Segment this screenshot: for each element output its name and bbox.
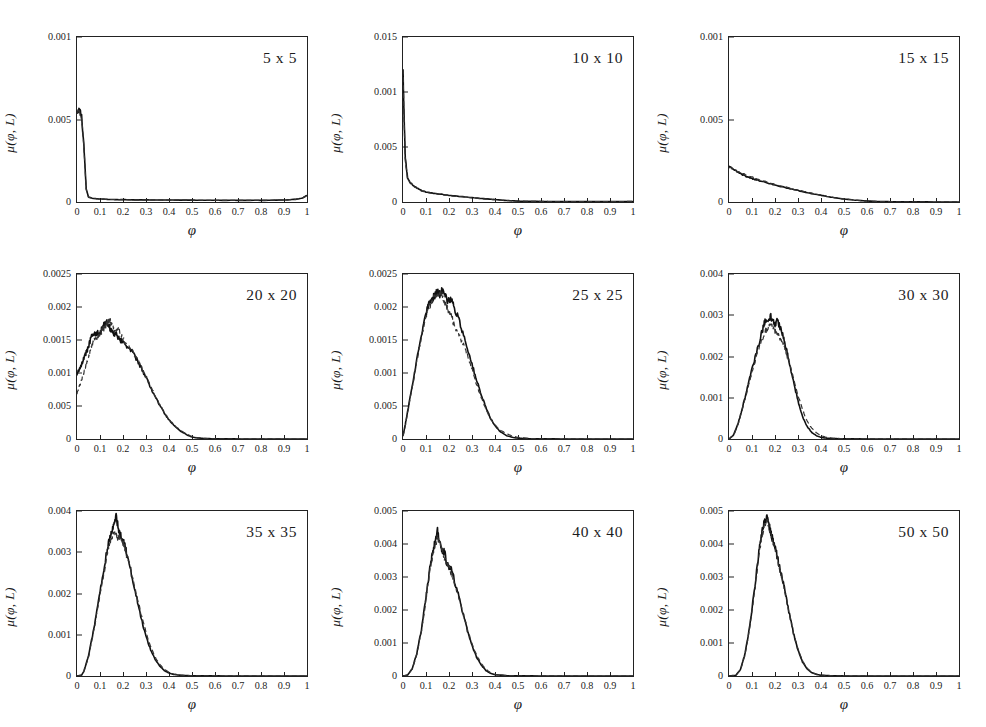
curve-solid (729, 314, 959, 439)
x-tick-label: 0.5 (512, 202, 525, 217)
x-tick-label: 0 (400, 439, 405, 454)
x-tick-label: 0.7 (232, 202, 245, 217)
x-tick-label: 1 (630, 676, 635, 691)
x-tick-label: 0 (726, 202, 731, 217)
curve-dashed (729, 324, 959, 439)
x-tick-label: 0.4 (489, 439, 502, 454)
panel-title: 30 x 30 (898, 286, 949, 304)
x-tick-label: 0.6 (535, 439, 548, 454)
x-tick-label: 0.3 (140, 676, 153, 691)
x-tick-label: 0.7 (558, 202, 571, 217)
x-tick-label: 0.3 (792, 202, 805, 217)
y-tick-label: 0.004 (48, 506, 77, 516)
y-tick-label: 0.001 (700, 638, 729, 648)
y-tick-label: 0.005 (48, 401, 77, 411)
y-tick-label: 0.002 (374, 302, 403, 312)
x-tick-label: 0.8 (255, 676, 268, 691)
x-tick-label: 0 (74, 676, 79, 691)
x-tick-label: 0.9 (278, 439, 291, 454)
x-tick-label: 0.1 (746, 202, 759, 217)
plot-frame: 00.0050.0010.00150.0020.002500.10.20.30.… (402, 273, 634, 440)
x-tick-label: 0.5 (186, 202, 199, 217)
y-axis-label: μ(φ, L) (0, 488, 20, 725)
curve-solid (403, 69, 633, 201)
x-axis-label: φ (77, 222, 307, 239)
x-tick-label: 0.2 (769, 439, 782, 454)
x-tick-label: 0.1 (746, 439, 759, 454)
x-tick-label: 0.2 (769, 202, 782, 217)
y-tick-label: 0.003 (48, 547, 77, 557)
x-tick-label: 0.8 (581, 439, 594, 454)
y-tick-label: 0.003 (700, 572, 729, 582)
y-axis-label: μ(φ, L) (326, 14, 346, 251)
curve-dashed (403, 291, 633, 439)
y-tick-label: 0.002 (700, 351, 729, 361)
plot-frame: 00.0010.0020.0030.0040.00500.10.20.30.40… (402, 510, 634, 677)
panel-30x30: μ(φ, L)00.0010.0020.0030.00400.10.20.30.… (656, 251, 982, 488)
y-tick-label: 0.0015 (43, 335, 77, 345)
y-tick-label: 0.002 (374, 605, 403, 615)
x-tick-label: 0.8 (255, 202, 268, 217)
y-axis-label: μ(φ, L) (326, 488, 346, 725)
x-tick-label: 0 (400, 676, 405, 691)
x-axis-label: φ (403, 222, 633, 239)
y-tick-label: 0.005 (48, 114, 77, 124)
panel-title: 15 x 15 (898, 49, 949, 67)
y-tick-label: 0.015 (374, 32, 403, 42)
y-axis-label: μ(φ, L) (0, 14, 20, 251)
panel-50x50: μ(φ, L)00.0010.0020.0030.0040.00500.10.2… (656, 488, 982, 725)
x-tick-label: 0.6 (209, 439, 222, 454)
y-axis-label-text: μ(φ, L) (2, 587, 18, 627)
y-axis-label-text: μ(φ, L) (328, 350, 344, 390)
y-tick-label: 0.004 (700, 269, 729, 279)
x-tick-label: 0.1 (420, 676, 433, 691)
y-tick-label: 0.005 (374, 506, 403, 516)
y-tick-label: 0.004 (374, 539, 403, 549)
x-tick-label: 0.5 (186, 676, 199, 691)
y-axis-label: μ(φ, L) (652, 488, 672, 725)
x-tick-label: 0.8 (255, 439, 268, 454)
x-tick-label: 0.2 (443, 202, 456, 217)
x-tick-label: 0 (74, 439, 79, 454)
curve-dashed (729, 519, 959, 676)
panel-5x5: μ(φ, L)00.0050.00100.10.20.30.40.50.60.7… (4, 14, 330, 251)
y-tick-label: 0.002 (48, 588, 77, 598)
y-tick-label: 0.0015 (369, 335, 403, 345)
plot-frame: 00.0050.00100.10.20.30.40.50.60.70.80.91… (728, 36, 960, 203)
y-tick-label: 0.005 (374, 401, 403, 411)
x-tick-label: 0.6 (861, 439, 874, 454)
panel-20x20: μ(φ, L)00.0050.0010.00150.0020.002500.10… (4, 251, 330, 488)
x-tick-label: 0.1 (94, 202, 107, 217)
x-tick-label: 1 (304, 202, 309, 217)
y-axis-label: μ(φ, L) (652, 14, 672, 251)
panel-title: 35 x 35 (246, 523, 297, 541)
x-tick-label: 0.1 (746, 676, 759, 691)
y-axis-label-text: μ(φ, L) (654, 350, 670, 390)
plot-frame: 00.0050.00100.10.20.30.40.50.60.70.80.91… (76, 36, 308, 203)
x-tick-label: 0.8 (907, 202, 920, 217)
y-tick-label: 0.001 (48, 368, 77, 378)
x-tick-label: 0.4 (489, 676, 502, 691)
y-tick-label: 0.001 (374, 87, 403, 97)
y-tick-label: 0.0025 (43, 269, 77, 279)
x-tick-label: 0.8 (907, 439, 920, 454)
x-tick-label: 1 (304, 439, 309, 454)
x-tick-label: 0.3 (140, 439, 153, 454)
x-tick-label: 0.6 (861, 676, 874, 691)
figure-root: μ(φ, L)00.0050.00100.10.20.30.40.50.60.7… (0, 0, 986, 727)
plot-frame: 00.0010.0020.0030.00400.10.20.30.40.50.6… (728, 273, 960, 440)
plot-frame: 00.0050.0010.01500.10.20.30.40.50.60.70.… (402, 36, 634, 203)
y-tick-label: 0.005 (374, 142, 403, 152)
x-tick-label: 0.9 (604, 676, 617, 691)
x-tick-label: 0.9 (278, 676, 291, 691)
x-tick-label: 0.7 (884, 676, 897, 691)
y-tick-label: 0.002 (700, 605, 729, 615)
x-tick-label: 0.2 (117, 439, 130, 454)
y-axis-label: μ(φ, L) (652, 251, 672, 488)
x-tick-label: 1 (956, 202, 961, 217)
y-tick-label: 0.001 (48, 32, 77, 42)
curve-dashed (77, 531, 307, 676)
plot-frame: 00.0010.0020.0030.0040.00500.10.20.30.40… (728, 510, 960, 677)
x-tick-label: 0.9 (604, 439, 617, 454)
panel-title: 5 x 5 (263, 49, 297, 67)
